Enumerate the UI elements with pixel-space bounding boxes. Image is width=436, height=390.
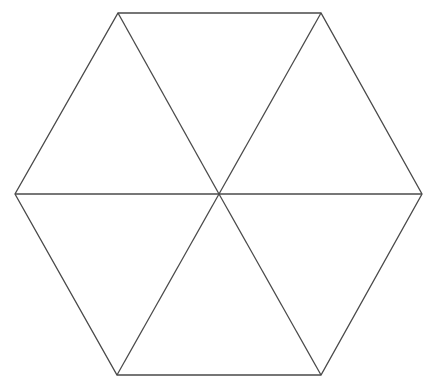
spoke-line-top-left [118,13,219,194]
spoke-line-top-right [219,13,321,194]
hexagon-triangles [15,13,422,375]
hexagon-diagram [0,0,436,390]
spoke-line-bottom-right [219,194,321,375]
spoke-line-bottom-left [117,194,219,375]
